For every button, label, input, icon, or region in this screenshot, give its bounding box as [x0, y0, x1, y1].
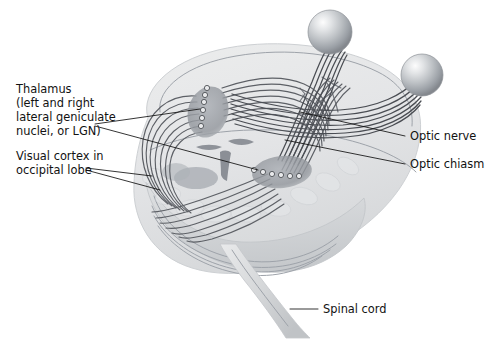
eyeball-left-sphere	[308, 10, 352, 54]
visual-pathway-figure: Thalamus (left and right lateral genicul…	[0, 0, 486, 339]
label-thalamus-line4: nuclei, or LGN)	[16, 124, 101, 138]
eyeball-right	[401, 54, 443, 96]
label-thalamus-line3: lateral geniculate	[16, 110, 116, 124]
anatomy-illustration: Thalamus (left and right lateral genicul…	[0, 0, 486, 339]
label-thalamus-line1: Thalamus	[15, 82, 72, 96]
label-visual-cortex: Visual cortex in occipital lobe	[16, 149, 104, 177]
label-optic-chiasm: Optic chiasm	[410, 157, 484, 171]
label-optic-nerve: Optic nerve	[410, 129, 476, 143]
label-thalamus-line2: (left and right	[16, 96, 95, 110]
label-visual-cortex-line1: Visual cortex in	[16, 149, 104, 163]
label-thalamus: Thalamus (left and right lateral genicul…	[15, 82, 116, 138]
label-visual-cortex-line2: occipital lobe	[16, 163, 92, 177]
eyeball-left	[308, 10, 352, 54]
eyeball-right-sphere	[401, 54, 443, 96]
label-spinal-cord: Spinal cord	[323, 302, 387, 316]
